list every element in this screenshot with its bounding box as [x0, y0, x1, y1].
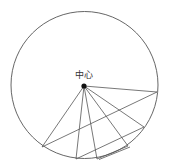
radius-to-E: [76, 86, 84, 159]
chords: [42, 92, 157, 160]
radius-to-F: [42, 86, 84, 147]
center-dot: [81, 83, 86, 88]
chord-C-D: [97, 146, 128, 159]
radius-to-A: [84, 86, 157, 92]
circle-diagram: 中心: [0, 0, 169, 168]
radius-to-D: [84, 86, 97, 159]
chord-C-D-offset: [99, 147, 130, 160]
center-label: 中心: [75, 69, 93, 80]
chord-A-F: [42, 92, 157, 147]
radius-to-B: [84, 86, 144, 127]
